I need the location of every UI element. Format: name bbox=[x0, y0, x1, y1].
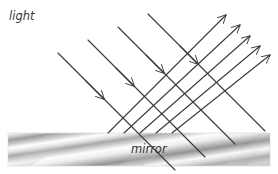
reflection-diagram: light mirror bbox=[0, 0, 278, 174]
incident-arrowhead bbox=[86, 81, 104, 99]
diagram-canvas bbox=[0, 0, 278, 174]
incident-ray bbox=[118, 27, 235, 144]
mirror-surface bbox=[8, 133, 270, 166]
reflected-ray bbox=[124, 25, 240, 133]
reflected-ray-group bbox=[108, 15, 270, 133]
incident-arrowhead bbox=[146, 55, 164, 73]
reflected-ray bbox=[156, 46, 260, 133]
incident-arrowhead bbox=[180, 46, 198, 64]
incident-arrowhead bbox=[116, 68, 134, 86]
